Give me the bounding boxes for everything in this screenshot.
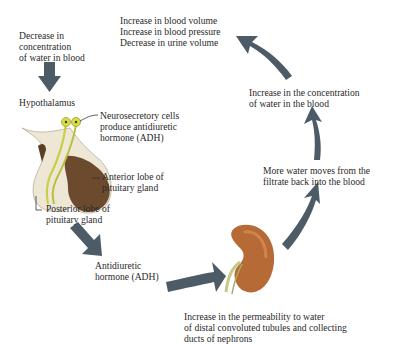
pituitary-illustration	[22, 115, 111, 213]
posterior-lobe-label: Posterior lobe of pituitary gland	[46, 203, 110, 225]
curved-arrow-icon	[282, 182, 320, 250]
diagonal-arrow-icon	[70, 222, 102, 256]
outcomes-label: Increase in blood volume Increase in blo…	[120, 15, 220, 48]
adh-label: Antidiuretic hormone (ADH)	[95, 260, 159, 282]
permeability-label: Increase in the permeability to water of…	[184, 311, 347, 344]
curved-arrow-icon	[236, 36, 292, 80]
hypothalamus-label: Hypothalamus	[19, 97, 75, 108]
down-arrow-icon	[38, 62, 61, 92]
anterior-lobe-label: Anterior lobe of pituitary gland	[102, 171, 164, 193]
right-arrow-icon	[166, 262, 226, 292]
kidney-illustration	[226, 225, 274, 294]
reabsorption-label: More water moves from the filtrate back …	[263, 165, 370, 187]
up-arrow-icon	[304, 106, 322, 160]
stimulus-label: Decrease in concentration of water in bl…	[19, 30, 85, 63]
concentration-increase-label: Increase in the concentration of water i…	[249, 87, 360, 109]
neurosecretory-cells-label: Neurosecretory cells produce antidiureti…	[100, 110, 179, 143]
